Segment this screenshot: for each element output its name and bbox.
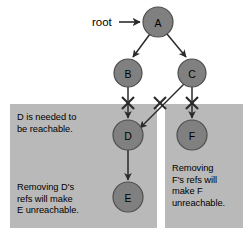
node-d-label: D — [124, 130, 132, 142]
gc-reachability-diagram: A B C D F E root D is needed to be reach… — [0, 0, 249, 240]
node-f-label: F — [189, 130, 195, 142]
node-b-label: B — [124, 68, 131, 80]
root-label: root — [92, 16, 113, 28]
node-c-label: C — [188, 68, 196, 80]
note-d-is-needed: D is needed to be reachable. — [17, 112, 125, 135]
edge-a-to-b — [133, 34, 150, 57]
note-removing-d-refs: Removing D's refs will make E unreachabl… — [17, 182, 129, 217]
note-removing-f-refs: Removing F's refs will make F unreachabl… — [172, 163, 244, 209]
node-a-label: A — [154, 17, 161, 29]
edge-a-to-c — [167, 34, 186, 57]
